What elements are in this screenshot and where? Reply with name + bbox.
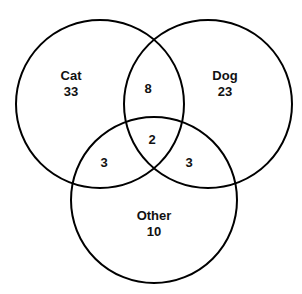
cat-value: 33 <box>61 84 82 100</box>
other-name: Other <box>137 208 172 224</box>
cat-dog-value: 8 <box>144 81 151 97</box>
cat-name: Cat <box>61 68 82 84</box>
cat-other-value: 3 <box>100 155 107 171</box>
dog-other-value: 3 <box>185 155 192 171</box>
dog-value: 23 <box>212 84 237 100</box>
dog-name: Dog <box>212 68 237 84</box>
other-value: 10 <box>137 224 172 240</box>
all-value: 2 <box>148 132 155 148</box>
cat-label: Cat 33 <box>61 68 82 100</box>
dog-circle <box>124 20 292 188</box>
dog-label: Dog 23 <box>212 68 237 100</box>
other-label: Other 10 <box>137 208 172 240</box>
